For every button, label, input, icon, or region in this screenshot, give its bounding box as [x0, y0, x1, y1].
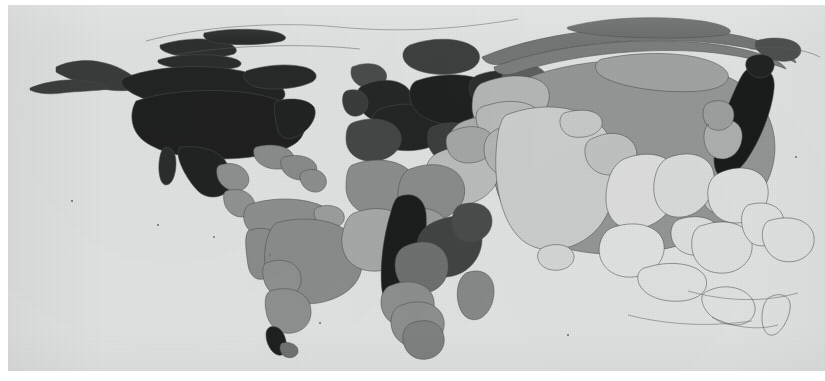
scan-speck-f — [707, 124, 709, 126]
region-horn-of-africa — [452, 203, 492, 242]
region-papua-new-guinea — [762, 218, 814, 262]
region-tierra-del-fuego — [280, 342, 298, 357]
region-arctic-islands-a — [204, 29, 286, 44]
cartogram-plate — [8, 5, 825, 371]
region-java — [638, 263, 707, 301]
screenshot-root — [0, 0, 825, 381]
region-baja — [159, 147, 176, 185]
region-north-america — [30, 29, 316, 197]
region-canada-east — [244, 65, 317, 89]
arctic-hairline-north — [146, 19, 518, 41]
scan-speck-c — [213, 236, 215, 238]
region-us-east-coast — [274, 99, 315, 138]
region-southeast-asia-oceania — [599, 154, 814, 335]
region-ireland — [343, 90, 368, 117]
region-sri-lanka — [538, 245, 574, 271]
region-south-africa — [403, 321, 444, 360]
scan-speck-b — [157, 224, 159, 226]
scan-speck-a — [71, 200, 73, 202]
scan-speck-e — [567, 334, 569, 336]
region-new-zealand — [762, 295, 790, 336]
region-madagascar — [457, 271, 494, 320]
region-australia — [702, 287, 755, 325]
region-lesser-antilles — [300, 169, 326, 192]
region-scandinavia — [403, 39, 480, 74]
scan-speck-g — [795, 156, 797, 158]
world-cartogram-figure — [8, 5, 825, 371]
scan-speck-d — [319, 322, 321, 324]
region-south-america — [244, 199, 363, 358]
region-iberia-shape — [346, 119, 401, 161]
scan-speck-h — [269, 254, 271, 256]
